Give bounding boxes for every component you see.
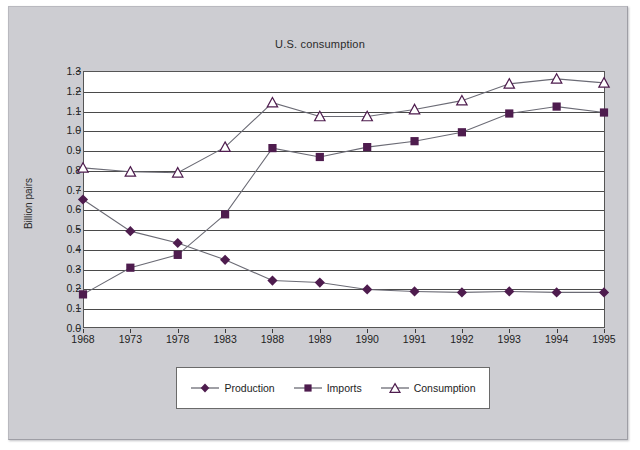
legend-label-imports: Imports bbox=[327, 382, 362, 394]
marker-diamond bbox=[552, 287, 562, 297]
x-axis-tick-mark bbox=[225, 329, 226, 333]
series-consumption bbox=[78, 74, 609, 177]
marker-triangle bbox=[551, 74, 561, 83]
marker-diamond bbox=[267, 275, 277, 285]
y-axis-tick-mark bbox=[76, 130, 81, 131]
marker-square bbox=[600, 108, 608, 116]
series-imports bbox=[79, 102, 608, 298]
marker-diamond bbox=[315, 277, 325, 287]
series-line bbox=[83, 200, 604, 293]
y-axis-tick-mark bbox=[76, 308, 81, 309]
legend-label-production: Production bbox=[224, 382, 274, 394]
y-axis-tick-mark bbox=[76, 269, 81, 270]
x-axis-tick-mark bbox=[83, 329, 84, 333]
y-axis-tick-mark bbox=[76, 209, 81, 210]
y-axis-tick-label: 0.6 bbox=[41, 203, 81, 215]
marker-square bbox=[221, 210, 229, 218]
marker-triangle bbox=[267, 97, 277, 106]
y-axis-tick-label: 1.0 bbox=[41, 124, 81, 136]
x-axis-tick-mark bbox=[462, 329, 463, 333]
series-layer bbox=[83, 71, 605, 328]
y-axis-tick-label: 0.3 bbox=[41, 263, 81, 275]
y-axis-tick-mark bbox=[76, 229, 81, 230]
marker-diamond bbox=[220, 255, 230, 265]
y-axis-tick-label: 0.9 bbox=[41, 144, 81, 156]
y-axis-tick-mark bbox=[76, 111, 81, 112]
y-axis-tick-label: 0.5 bbox=[41, 223, 81, 235]
marker-diamond bbox=[457, 287, 467, 297]
series-production bbox=[78, 194, 609, 297]
marker-diamond bbox=[504, 286, 514, 296]
chart-page: U.S. consumption Billion pairs 1.31.21.1… bbox=[0, 0, 640, 450]
y-axis-tick-mark bbox=[76, 328, 81, 329]
marker-diamond bbox=[362, 284, 372, 294]
marker-square bbox=[174, 251, 182, 259]
legend-item-consumption[interactable]: Consumption bbox=[380, 382, 476, 394]
marker-diamond bbox=[125, 226, 135, 236]
x-axis-tick-mark bbox=[367, 329, 368, 333]
marker-square bbox=[553, 102, 561, 110]
x-axis-tick-mark bbox=[320, 329, 321, 333]
legend-marker-diamond-icon bbox=[190, 382, 220, 394]
marker-square bbox=[79, 290, 87, 298]
x-axis-tick-labels: 1968197319781983198819891990199119921993… bbox=[83, 329, 605, 353]
x-axis-tick-mark bbox=[604, 329, 605, 333]
x-axis-tick-label: 1995 bbox=[574, 333, 634, 345]
series-line bbox=[83, 107, 604, 295]
series-line bbox=[83, 79, 604, 173]
marker-square bbox=[268, 144, 276, 152]
legend-label-consumption: Consumption bbox=[414, 382, 476, 394]
legend-marker-square-icon bbox=[293, 382, 323, 394]
marker-square bbox=[505, 109, 513, 117]
marker-square bbox=[458, 128, 466, 136]
y-axis-tick-mark bbox=[76, 288, 81, 289]
y-axis-tick-mark bbox=[76, 71, 81, 72]
marker-square bbox=[316, 153, 324, 161]
x-axis-tick-mark bbox=[509, 329, 510, 333]
x-axis-tick-mark bbox=[178, 329, 179, 333]
y-axis-tick-mark bbox=[76, 91, 81, 92]
y-axis-tick-mark bbox=[76, 190, 81, 191]
marker-square bbox=[126, 264, 134, 272]
marker-triangle bbox=[457, 95, 467, 104]
x-axis-tick-mark bbox=[130, 329, 131, 333]
legend-item-imports[interactable]: Imports bbox=[293, 382, 362, 394]
x-axis-tick-mark bbox=[415, 329, 416, 333]
marker-diamond bbox=[173, 238, 183, 248]
chart-title: U.S. consumption bbox=[0, 38, 640, 50]
marker-square bbox=[363, 143, 371, 151]
marker-square bbox=[410, 137, 418, 145]
legend-item-production[interactable]: Production bbox=[190, 382, 274, 394]
marker-diamond bbox=[409, 286, 419, 296]
y-axis-tick-label: 0.8 bbox=[41, 164, 81, 176]
y-axis-tick-label: 0.4 bbox=[41, 243, 81, 255]
y-axis-tick-label: 1.1 bbox=[41, 105, 81, 117]
y-axis-tick-labels: 1.31.21.11.00.90.80.70.60.50.40.30.20.10… bbox=[35, 71, 81, 328]
x-axis-tick-mark bbox=[272, 329, 273, 333]
y-axis-tick-label: 0.2 bbox=[41, 282, 81, 294]
y-axis-tick-mark bbox=[76, 150, 81, 151]
y-axis-title: Billion pairs bbox=[23, 164, 34, 244]
y-axis-tick-label: 1.3 bbox=[41, 65, 81, 77]
x-axis-tick-mark bbox=[557, 329, 558, 333]
y-axis-tick-label: 0.1 bbox=[41, 302, 81, 314]
y-axis-tick-label: 1.2 bbox=[41, 85, 81, 97]
y-axis-tick-label: 0.7 bbox=[41, 184, 81, 196]
chart-legend: Production Imports Consumption bbox=[176, 367, 490, 409]
legend-marker-triangle-icon bbox=[380, 382, 410, 394]
y-axis-tick-mark bbox=[76, 249, 81, 250]
